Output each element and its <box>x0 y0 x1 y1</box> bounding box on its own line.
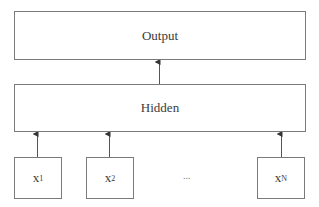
input-node-xN: xN <box>257 157 305 199</box>
input-subscript: N <box>281 174 287 183</box>
hidden-layer-label: Hidden <box>141 100 179 116</box>
input-subscript: 1 <box>39 174 43 183</box>
output-layer-box: Output <box>14 11 306 60</box>
input-subscript: 2 <box>111 174 115 183</box>
input-node-x1: x1 <box>14 157 62 199</box>
input-node-x2: x2 <box>86 157 134 199</box>
ellipsis: ... <box>183 170 191 181</box>
hidden-layer-box: Hidden <box>14 84 306 132</box>
output-layer-label: Output <box>142 28 178 44</box>
